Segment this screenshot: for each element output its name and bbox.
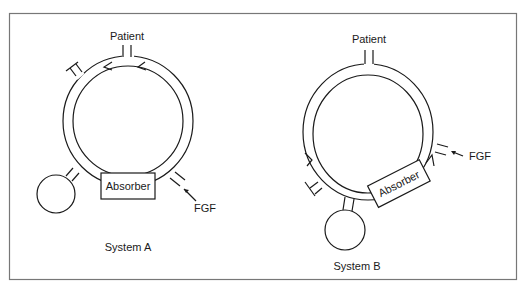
system-b-apl-valve [305,182,315,196]
system-b: Patient FGF Absorber System B [303,33,491,272]
system-b-reservoir-bag [325,210,365,250]
system-b-patient-label: Patient [352,33,386,45]
system-b-fgf-inlet [437,144,448,147]
system-a-outer-tube [63,56,193,186]
figure-border [10,14,517,280]
system-a-inner-tube [73,66,183,176]
system-b-title: System B [333,260,380,272]
system-a-title: System A [105,241,152,253]
system-a: Patient Absorber FGF System A [37,30,216,253]
breathing-systems-diagram: Patient Absorber FGF System A Patient [0,0,529,294]
system-b-fgf-label: FGF [469,150,491,162]
system-b-valve-right [426,155,434,166]
system-a-fgf-inlet [175,172,185,180]
system-a-apl-valve [66,62,78,71]
system-a-patient-label: Patient [110,30,144,42]
system-a-fgf-label: FGF [194,202,216,214]
system-a-absorber-label: Absorber [106,180,151,192]
system-a-reservoir-bag [37,175,75,213]
